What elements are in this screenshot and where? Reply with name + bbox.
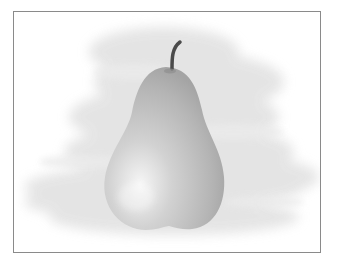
pear-illustration <box>14 12 321 253</box>
image-frame <box>13 11 321 253</box>
